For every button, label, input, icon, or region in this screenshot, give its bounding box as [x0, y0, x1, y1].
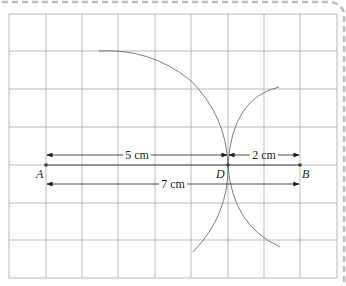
construction-diagram: 5 cm2 cm7 cm ADB — [0, 0, 346, 286]
measurement-label: 2 cm — [252, 148, 276, 162]
point-label: D — [215, 167, 225, 181]
measurements: 5 cm2 cm7 cm — [47, 148, 299, 191]
point-label: B — [302, 167, 310, 181]
point-dot — [226, 163, 230, 167]
measurement-label: 7 cm — [161, 177, 185, 191]
point-dot — [44, 163, 48, 167]
measurement-2-cm: 2 cm — [229, 148, 299, 162]
point-label: A — [35, 167, 44, 181]
measurement-7-cm: 7 cm — [47, 177, 299, 191]
grid — [9, 14, 337, 278]
measurement-5-cm: 5 cm — [47, 148, 227, 162]
measurement-label: 5 cm — [125, 148, 149, 162]
arc-centered-b — [228, 87, 280, 247]
dashed-frame — [2, 2, 344, 286]
